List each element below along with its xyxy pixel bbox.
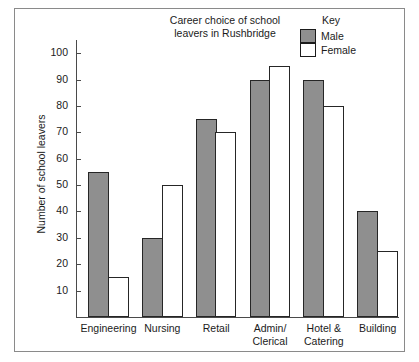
- y-tick-label: 30: [28, 231, 68, 243]
- bar-male: [142, 238, 163, 317]
- chart-title: Career choice of school leavers in Rushb…: [150, 14, 300, 40]
- y-tick-label: 20: [28, 257, 68, 269]
- bar-group: [357, 40, 398, 317]
- bar-series-container: [76, 40, 399, 317]
- y-tick-label: 80: [28, 99, 68, 111]
- bar-female: [108, 277, 129, 317]
- y-tick-label: 10: [28, 284, 68, 296]
- legend-title: Key: [322, 14, 400, 27]
- y-tick-label: 40: [28, 204, 68, 216]
- bar-male: [88, 172, 109, 317]
- bar-group: [196, 40, 237, 317]
- x-axis-line: [76, 317, 399, 318]
- plot-area: 102030405060708090100: [76, 40, 399, 317]
- bar-male: [196, 119, 217, 317]
- bar-group: [88, 40, 129, 317]
- y-tick-label: 60: [28, 152, 68, 164]
- y-tick-label: 90: [28, 73, 68, 85]
- bar-male: [250, 80, 271, 317]
- bar-female: [323, 106, 344, 317]
- bar-group: [142, 40, 183, 317]
- y-tick-label: 70: [28, 125, 68, 137]
- bar-group: [250, 40, 291, 317]
- chart-figure: Career choice of school leavers in Rushb…: [0, 0, 419, 362]
- bar-female: [215, 132, 236, 317]
- bar-group: [303, 40, 344, 317]
- bar-male: [357, 211, 378, 317]
- bar-female: [269, 66, 290, 317]
- bar-male: [303, 80, 324, 317]
- x-axis-category-labels: EngineeringNursingRetailAdmin/ ClericalH…: [76, 322, 399, 358]
- x-category-label: Building: [345, 322, 410, 335]
- y-tick-label: 100: [28, 46, 68, 58]
- bar-female: [162, 185, 183, 317]
- bar-female: [377, 251, 398, 317]
- y-tick-label: 50: [28, 178, 68, 190]
